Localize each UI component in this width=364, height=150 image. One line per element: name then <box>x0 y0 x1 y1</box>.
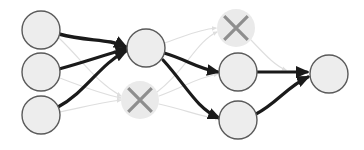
network-pruning-diagram <box>0 0 364 150</box>
active-node-body <box>127 29 165 67</box>
node-in-1[interactable] <box>22 11 60 49</box>
edge-hub-to-pruned-top <box>164 28 216 43</box>
active-node-body <box>22 11 60 49</box>
node-mid-1[interactable] <box>219 53 257 91</box>
active-edge-group <box>58 34 308 118</box>
node-out-1[interactable] <box>310 55 348 93</box>
diagram-canvas <box>0 0 364 150</box>
active-node-body <box>310 55 348 93</box>
active-node-body <box>22 96 60 134</box>
node-pruned-mid[interactable] <box>121 81 159 119</box>
node-in-3[interactable] <box>22 96 60 134</box>
node-in-2[interactable] <box>22 53 60 91</box>
edge-mid-2-to-out-1 <box>256 77 308 114</box>
edge-in-1-to-hub <box>59 34 126 47</box>
active-node-body <box>22 53 60 91</box>
node-hub[interactable] <box>127 29 165 67</box>
node-pruned-top[interactable] <box>217 9 255 47</box>
active-node-body <box>219 101 257 139</box>
node-mid-2[interactable] <box>219 101 257 139</box>
active-node-body <box>219 53 257 91</box>
node-group <box>22 9 348 139</box>
